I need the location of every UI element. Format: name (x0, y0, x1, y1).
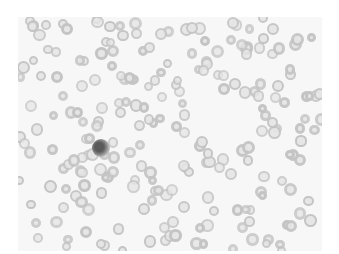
red-blood-cell (294, 154, 306, 166)
red-blood-cell (211, 45, 224, 58)
red-blood-cell (144, 235, 157, 248)
red-blood-cell (166, 184, 178, 196)
red-blood-cell (36, 71, 46, 81)
red-blood-cell (242, 141, 255, 154)
red-blood-cell (135, 140, 145, 150)
red-blood-cell (27, 21, 38, 32)
red-blood-cell (139, 102, 150, 113)
red-blood-cell (279, 97, 290, 108)
red-blood-cell (144, 42, 156, 54)
red-blood-cell (91, 120, 104, 133)
red-blood-cell (178, 99, 187, 108)
red-blood-cell (239, 86, 251, 98)
red-blood-cell (186, 22, 198, 34)
red-blood-cell (254, 42, 266, 54)
red-blood-cell (179, 109, 190, 120)
blood-smear-photo (18, 17, 322, 251)
red-blood-cell (256, 125, 268, 137)
red-blood-cell (225, 168, 237, 180)
red-blood-cell (124, 147, 136, 159)
red-blood-cell (115, 107, 126, 118)
red-blood-cell (62, 242, 71, 251)
red-blood-cell (94, 163, 107, 176)
red-blood-cell (272, 80, 284, 92)
red-blood-cell (155, 28, 167, 40)
red-blood-cell (157, 92, 167, 102)
red-blood-cell (258, 104, 267, 113)
red-blood-cell (228, 244, 238, 251)
red-blood-cell (134, 120, 145, 131)
red-blood-cell (50, 216, 63, 229)
red-blood-cell (18, 176, 24, 186)
red-blood-cell (179, 127, 190, 138)
red-blood-cell (196, 136, 208, 148)
red-blood-cell (96, 239, 106, 249)
red-blood-cell (144, 114, 155, 125)
red-blood-cell (267, 23, 279, 35)
red-blood-cell (200, 36, 210, 46)
red-blood-cell (80, 226, 92, 238)
red-blood-cell (195, 223, 205, 233)
red-blood-cell (304, 214, 317, 227)
red-blood-cell (148, 176, 157, 185)
red-blood-cell (78, 117, 88, 127)
red-blood-cell (58, 91, 68, 101)
red-blood-cell (291, 33, 304, 46)
red-blood-cell (300, 114, 310, 124)
red-blood-cell (72, 107, 83, 118)
red-blood-cell (262, 239, 271, 248)
red-blood-cell (163, 59, 172, 68)
red-blood-cell (285, 64, 295, 74)
red-blood-cell (218, 83, 229, 94)
red-blood-cell (49, 111, 58, 120)
red-blood-cell (315, 113, 322, 125)
red-blood-cell (307, 33, 317, 43)
red-blood-cell (178, 201, 190, 213)
red-blood-cell (246, 233, 258, 245)
red-blood-cell (107, 166, 119, 178)
red-blood-cell (258, 191, 267, 200)
red-blood-cell (117, 30, 128, 41)
red-blood-cell (169, 229, 182, 242)
red-blood-cell (47, 144, 58, 155)
red-blood-cell (295, 123, 306, 134)
red-blood-cell (226, 35, 236, 45)
red-blood-cell (44, 180, 57, 193)
red-blood-cell (214, 162, 225, 173)
red-blood-cell (31, 123, 43, 135)
red-blood-cell (277, 176, 287, 186)
red-blood-cell (187, 48, 198, 59)
red-blood-cell (95, 47, 107, 59)
red-blood-cell (76, 80, 88, 92)
red-blood-cell (284, 183, 297, 196)
red-blood-cell (255, 78, 267, 90)
red-blood-cell (76, 167, 88, 179)
red-blood-cell (167, 216, 179, 228)
red-blood-cell (25, 100, 37, 112)
red-blood-cell (153, 185, 164, 196)
red-blood-cell (199, 239, 208, 248)
red-blood-cell (295, 135, 306, 146)
red-blood-cell (245, 24, 254, 33)
red-blood-cell (104, 21, 115, 32)
red-blood-cell (96, 187, 107, 198)
red-blood-cell (258, 171, 270, 183)
red-blood-cell (273, 42, 285, 54)
red-blood-cell (96, 102, 108, 114)
red-blood-cell (156, 68, 165, 77)
red-blood-cell (91, 17, 104, 28)
red-blood-cell (237, 222, 248, 233)
red-blood-cell (31, 218, 42, 229)
red-blood-cell (236, 39, 248, 51)
red-blood-cell (253, 90, 264, 101)
red-blood-cell (18, 72, 25, 82)
red-blood-cell (107, 61, 117, 71)
red-blood-cell (198, 65, 208, 75)
red-blood-cell (144, 82, 153, 91)
red-blood-cell (275, 240, 284, 249)
red-blood-cell (118, 246, 127, 251)
red-blood-cell (29, 56, 39, 66)
red-blood-cell (113, 223, 124, 234)
red-blood-cell (285, 220, 297, 232)
red-blood-cell (241, 205, 251, 215)
